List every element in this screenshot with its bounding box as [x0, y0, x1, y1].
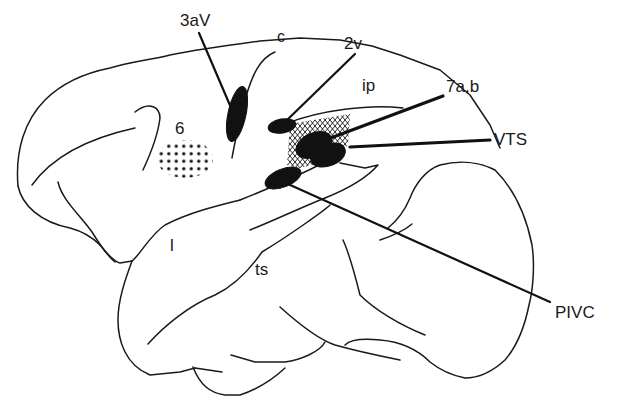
frontal-sulcus-principal	[32, 128, 135, 185]
hemisphere-dorsal-outline	[17, 38, 500, 186]
label-2v: 2v	[344, 34, 362, 53]
lateral-sulcus-upper	[132, 200, 240, 261]
area-3aV-region	[222, 85, 251, 144]
superior-temporal-sulcus	[148, 205, 330, 344]
temporal-pole-tail	[195, 368, 222, 372]
frontal-ventral-outline	[18, 186, 100, 245]
arcuate-sulcus	[135, 106, 160, 170]
temporal-lobe-outline	[118, 261, 195, 375]
label-PIVC: PIVC	[555, 303, 595, 322]
label-VTS: VTS	[494, 130, 527, 149]
temporal-pole-lower	[193, 367, 285, 395]
frontal-tip-lower	[100, 245, 132, 263]
label-3aV: 3aV	[180, 11, 211, 30]
brain-diagram: 3aV c 2v ip 7a,b VTS 6 l ts PIVC	[0, 0, 617, 411]
leader-VTS	[350, 140, 490, 147]
label-7ab: 7a,b	[446, 77, 479, 96]
leader-PIVC	[288, 184, 550, 302]
label-ts: ts	[255, 260, 268, 279]
temporal-inner-curve-1	[280, 307, 400, 360]
orbital-sulcus	[58, 182, 115, 262]
label-6: 6	[175, 119, 184, 138]
leader-2v	[285, 54, 355, 122]
leader-3aV	[199, 33, 232, 110]
area-6-dotted-region	[157, 140, 213, 178]
temporal-inner-curve-2	[231, 342, 325, 362]
label-l: l	[170, 236, 174, 255]
temporal-sulcus-right	[343, 240, 425, 335]
label-c: c	[277, 28, 285, 45]
label-ip: ip	[362, 76, 375, 95]
occipital-lobe-outline	[345, 162, 533, 378]
